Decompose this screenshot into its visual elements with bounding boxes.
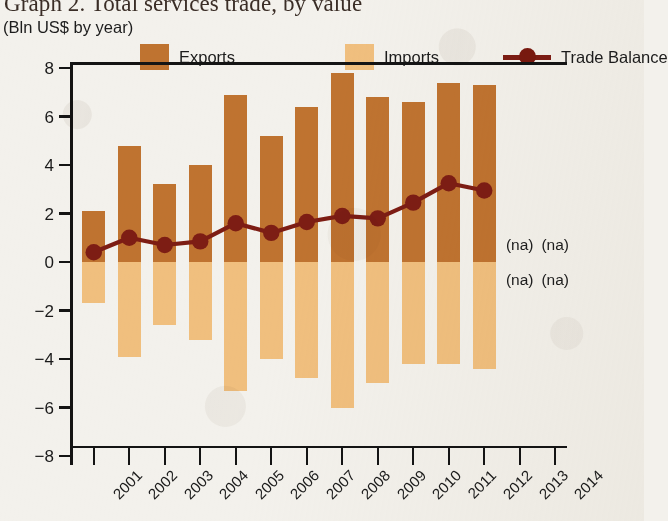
trade-balance-point <box>334 208 350 224</box>
x-tick <box>128 446 130 465</box>
legend-label-trade-balance: Trade Balance <box>561 49 668 66</box>
x-tick <box>377 446 379 465</box>
x-tick-label: 2014 <box>571 467 606 502</box>
y-tick <box>59 67 70 70</box>
na-label-2013-below-zero: (na) <box>506 272 534 288</box>
chart-title: Graph 2. Total services trade, by value <box>4 0 362 17</box>
x-tick-label: 2002 <box>145 467 180 502</box>
y-tick-label: −2 <box>35 302 54 319</box>
na-label-2013-above-zero: (na) <box>506 237 534 253</box>
x-tick <box>448 446 450 465</box>
y-tick <box>59 358 70 361</box>
y-tick <box>59 115 70 118</box>
x-tick <box>341 446 343 465</box>
trade-balance-point <box>441 175 457 191</box>
trade-balance-point <box>263 225 279 241</box>
y-tick <box>59 309 70 312</box>
y-tick-label: 8 <box>45 60 54 77</box>
x-tick <box>554 446 556 465</box>
x-tick-label: 2004 <box>216 467 251 502</box>
y-tick <box>59 212 70 215</box>
x-tick <box>412 446 414 465</box>
trade-balance-point <box>86 244 102 260</box>
y-tick-label: −8 <box>35 448 54 465</box>
trade-balance-point <box>370 210 386 226</box>
x-tick <box>199 446 201 465</box>
x-tick-label: 2010 <box>429 467 464 502</box>
x-tick-label: 2009 <box>394 467 429 502</box>
y-tick-label: 6 <box>45 108 54 125</box>
x-tick-label: 2008 <box>358 467 393 502</box>
x-tick-label: 2013 <box>536 467 571 502</box>
x-tick-label: 2001 <box>110 467 145 502</box>
y-tick-label: 2 <box>45 205 54 222</box>
x-tick <box>164 446 166 465</box>
x-axis-line <box>70 446 567 448</box>
y-tick-label: −4 <box>35 351 54 368</box>
trade-balance-point <box>476 182 492 198</box>
x-tick <box>306 446 308 465</box>
na-label-2014-below-zero: (na) <box>541 272 569 288</box>
x-tick-label: 2011 <box>464 467 498 501</box>
trade-balance-polyline <box>94 183 485 252</box>
na-label-2014-above-zero: (na) <box>541 237 569 253</box>
x-tick <box>235 446 237 465</box>
y-tick-label: 0 <box>45 254 54 271</box>
x-tick <box>270 446 272 465</box>
x-tick <box>93 446 95 465</box>
x-tick-label: 2003 <box>181 467 216 502</box>
x-tick-label: 2005 <box>252 467 287 502</box>
y-tick <box>59 164 70 167</box>
chart-subtitle: (Bln US$ by year) <box>3 18 133 37</box>
y-tick <box>59 455 70 458</box>
trade-balance-line <box>70 62 567 465</box>
plot-area: 86420−2−4−6−8 (na)(na)(na)(na) 200120022… <box>70 62 567 465</box>
x-tick <box>483 446 485 465</box>
trade-balance-point <box>299 214 315 230</box>
x-tick <box>519 446 521 465</box>
trade-balance-point <box>405 194 421 210</box>
y-tick <box>59 406 70 409</box>
y-tick-label: 4 <box>45 157 54 174</box>
x-tick-label: 2006 <box>287 467 322 502</box>
trade-balance-point <box>121 230 137 246</box>
y-tick-label: −6 <box>35 399 54 416</box>
trade-balance-point <box>228 215 244 231</box>
trade-balance-point <box>192 233 208 249</box>
y-tick <box>59 261 70 264</box>
x-tick-label: 2012 <box>500 467 535 502</box>
x-tick-label: 2007 <box>323 467 358 502</box>
trade-balance-point <box>157 237 173 253</box>
